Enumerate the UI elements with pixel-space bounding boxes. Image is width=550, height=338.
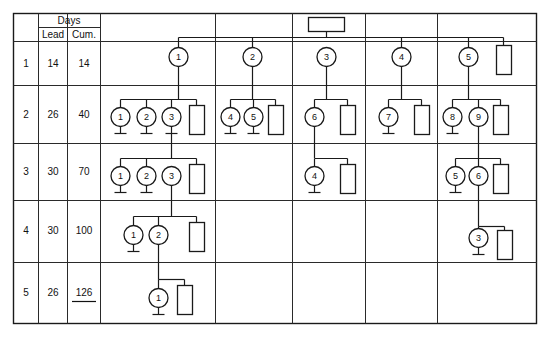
level2-branch-b-group: 4 5 (221, 100, 284, 135)
node-label-n2-a2: 2 (144, 112, 149, 122)
part-box-group-l1-e (497, 38, 512, 75)
table-cell-lead-1: 14 (47, 58, 59, 69)
node-label-n1-b: 2 (250, 52, 255, 62)
table-cell-level-3: 3 (23, 166, 29, 177)
table-cell-cum-4: 100 (76, 225, 93, 236)
table-cell-level-1: 1 (23, 58, 29, 69)
part-box-l2-b (269, 106, 284, 135)
top-assembly-box (309, 18, 345, 32)
table-cell-lead-5: 26 (47, 287, 59, 298)
part-box-l2-a (190, 106, 205, 135)
node-label-n1-a: 1 (176, 52, 181, 62)
table-cell-cum-3: 70 (78, 166, 90, 177)
node-label-n1-c: 3 (324, 52, 329, 62)
node-label-n1-e: 5 (466, 52, 471, 62)
node-label-n3-a3: 3 (169, 171, 174, 181)
table-cell-lead-4: 30 (47, 225, 59, 236)
part-box-l3-c (341, 165, 356, 194)
node-label-n2-e2: 9 (476, 112, 481, 122)
table-cell-lead-3: 30 (47, 166, 59, 177)
level2-branch-d-group: 7 (379, 100, 430, 135)
node-label-n3-c1: 4 (312, 171, 317, 181)
part-box-l5-a (178, 286, 193, 315)
node-label-n3-a2: 2 (144, 171, 149, 181)
table-header-cum: Cum. (72, 29, 96, 40)
node-label-n5-a1: 1 (156, 293, 161, 303)
node-label-n2-c1: 6 (312, 112, 317, 122)
part-box-l4-e (498, 231, 513, 260)
part-box-l3-e (494, 165, 509, 194)
table-cell-cum-1: 14 (78, 58, 90, 69)
level2-branch-a-group: 1 2 3 (111, 100, 205, 135)
node-group-n1-c: 3 (317, 48, 336, 100)
level2-branch-c-group: 6 (305, 100, 356, 159)
level3-branch-e-group: 5 6 (446, 159, 509, 227)
level4-branch-a-group: 1 2 (124, 217, 205, 280)
node-group-n1-d: 4 (392, 38, 411, 100)
table-cell-cum-5: 126 (76, 287, 93, 298)
part-box-l3-a (190, 165, 205, 194)
level2-branch-e-group: 8 9 (443, 100, 509, 159)
part-box-l2-e (494, 106, 509, 135)
node-group-n1-b: 2 (243, 38, 262, 100)
table-cell-level-2: 2 (23, 109, 29, 120)
lead-time-structure-chart: Days Lead Cum. 1 14 14 2 26 40 3 30 70 4… (0, 0, 550, 338)
part-box-l4-a (190, 223, 205, 252)
node-label-n3-e2: 6 (476, 171, 481, 181)
table-cell-level-4: 4 (23, 225, 29, 236)
part-box-l2-c (341, 106, 356, 135)
node-label-n4-e1: 3 (476, 233, 481, 243)
node-group-n1-e: 5 (459, 38, 478, 100)
node-label-n2-b2: 5 (251, 112, 256, 122)
node-label-n1-d: 4 (399, 52, 404, 62)
node-label-n2-a1: 1 (118, 112, 123, 122)
node-label-n4-a1: 1 (131, 230, 136, 240)
diagram-stage: Days Lead Cum. 1 14 14 2 26 40 3 30 70 4… (0, 0, 550, 338)
diagram-page: Days Lead Cum. 1 14 14 2 26 40 3 30 70 4… (0, 0, 550, 338)
table-cell-level-5: 5 (23, 287, 29, 298)
node-label-n3-a1: 1 (118, 171, 123, 181)
node-label-n2-a3: 3 (169, 112, 174, 122)
node-group-n1-a: 1 (169, 38, 188, 100)
part-box-l1-e (497, 46, 512, 75)
level5-branch-a-group: 1 (149, 280, 193, 315)
table-cell-cum-2: 40 (78, 109, 90, 120)
node-label-n3-e1: 5 (453, 171, 458, 181)
table-cell-lead-2: 26 (47, 109, 59, 120)
table-header-days: Days (58, 15, 81, 26)
node-label-n4-a2: 2 (156, 230, 161, 240)
node-label-n2-e1: 8 (450, 112, 455, 122)
level4-branch-e-group: 3 (469, 227, 513, 260)
level3-branch-c-group: 4 (305, 159, 356, 194)
part-box-l2-d (415, 106, 430, 135)
top-assembly-box-group (309, 18, 345, 38)
node-label-n2-d1: 7 (386, 112, 391, 122)
node-label-n2-b1: 4 (228, 112, 233, 122)
table-header-lead: Lead (42, 29, 64, 40)
level3-branch-a-group: 1 2 3 (111, 134, 205, 217)
